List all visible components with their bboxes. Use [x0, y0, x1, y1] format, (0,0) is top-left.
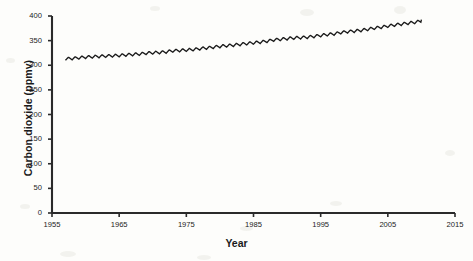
y-tick-label: 200 [8, 110, 42, 119]
x-tick-label: 1965 [99, 220, 139, 229]
y-tick-label: 250 [8, 85, 42, 94]
data-series-layer [65, 20, 421, 61]
co2-keeling-curve-figure: Carbon dioxide (ppmv) Year 0501001502002… [0, 0, 473, 261]
x-tick-label: 1955 [32, 220, 72, 229]
y-tick-label: 0 [8, 208, 42, 217]
y-tick-label: 400 [8, 11, 42, 20]
y-tick-label: 100 [8, 159, 42, 168]
y-tick-label: 150 [8, 134, 42, 143]
co2-data-line [65, 20, 421, 61]
y-tick-label: 50 [8, 183, 42, 192]
x-tick-label: 2015 [435, 220, 473, 229]
x-tick-label: 2005 [368, 220, 408, 229]
x-tick-label: 1985 [234, 220, 274, 229]
y-tick-label: 350 [8, 36, 42, 45]
axis-layer [48, 16, 455, 217]
x-tick-label: 1995 [301, 220, 341, 229]
x-axis-title: Year [0, 237, 473, 249]
x-tick-label: 1975 [166, 220, 206, 229]
y-tick-label: 300 [8, 60, 42, 69]
